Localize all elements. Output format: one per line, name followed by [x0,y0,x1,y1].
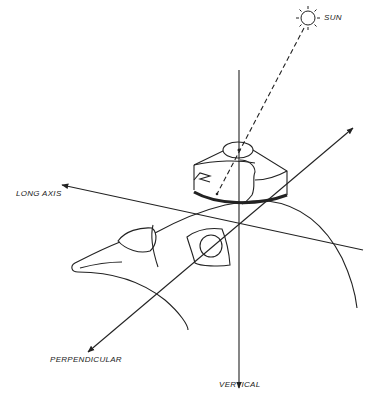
diagram-canvas: SUN LONG AXIS PERPENDICULAR VERTICAL [0,0,381,398]
eye [200,235,222,257]
diagram-drawing [0,0,381,398]
ray-end-point [216,193,219,196]
bird-head-outline [72,201,357,330]
long-axis-line [62,185,363,250]
ray-entry-point [238,149,241,152]
skin-block [194,142,287,204]
perpendicular-label: PERPENDICULAR [50,355,122,364]
sun-ray-line [217,28,304,194]
vertical-label: VERTICAL [219,380,260,389]
sun-icon [296,6,320,30]
long-axis-label: LONG AXIS [16,189,62,198]
sun-label: SUN [324,13,342,22]
